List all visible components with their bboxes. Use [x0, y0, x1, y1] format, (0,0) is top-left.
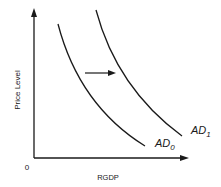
origin-label: 0 — [25, 163, 30, 172]
y-axis-arrowhead-icon — [31, 8, 37, 17]
ad1-label: AD1 — [190, 124, 211, 139]
x-axis-label: RGDP — [97, 173, 119, 182]
ad-shift-diagram: Price Level 0 RGDP AD0 AD1 — [0, 0, 221, 187]
y-axis-label: Price Level — [13, 70, 22, 110]
shift-arrowhead-icon — [108, 70, 116, 76]
ad0-curve — [58, 24, 145, 146]
ad0-label: AD0 — [154, 137, 175, 152]
x-axis-arrowhead-icon — [180, 155, 189, 161]
